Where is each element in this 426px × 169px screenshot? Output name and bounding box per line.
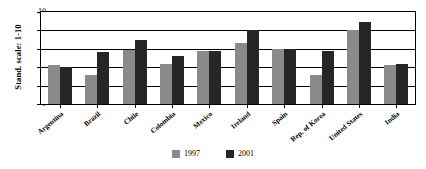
bar-1997 xyxy=(160,64,172,104)
bar-chart: Stand. scale: 1-10 0246810 ArgentinaBraz… xyxy=(0,0,426,169)
x-label-slot: Argentina xyxy=(41,108,78,148)
x-axis-category-label: Argentina xyxy=(36,110,65,136)
x-label-slot: Spain xyxy=(265,108,302,148)
x-label-slot: Colombia xyxy=(153,108,190,148)
bar-1997 xyxy=(123,50,135,104)
bar-1997 xyxy=(235,43,247,104)
x-label-slot: Brazil xyxy=(78,108,115,148)
x-axis-category-label: India xyxy=(384,110,402,127)
bar-group xyxy=(41,12,78,104)
legend-label: 1997 xyxy=(184,150,200,158)
x-axis-category-label: Mexico xyxy=(192,110,214,131)
legend-item: 2001 xyxy=(226,150,254,158)
bar-1997 xyxy=(384,65,396,104)
legend-label: 2001 xyxy=(238,150,254,158)
x-axis-category-label: Ireland xyxy=(229,110,251,131)
bar-group xyxy=(265,12,302,104)
bar-2001 xyxy=(247,30,259,104)
x-axis-category-label: Colombia xyxy=(149,110,177,135)
bar-2001 xyxy=(60,67,72,104)
chart-legend: 19972001 xyxy=(0,150,426,158)
bar-1997 xyxy=(48,65,60,104)
legend-swatch-icon xyxy=(226,150,234,158)
bar-group xyxy=(116,12,153,104)
x-label-slot: Rep. of Korea xyxy=(303,108,340,148)
x-label-slot: United States xyxy=(340,108,377,148)
bar-2001 xyxy=(322,51,334,104)
bar-group xyxy=(340,12,377,104)
legend-swatch-icon xyxy=(172,150,180,158)
x-axis-category-label: Chile xyxy=(122,110,140,127)
bar-2001 xyxy=(172,56,184,104)
bar-2001 xyxy=(135,40,147,104)
bar-1997 xyxy=(85,75,97,104)
x-label-slot: Chile xyxy=(116,108,153,148)
bar-2001 xyxy=(97,52,109,104)
bars-layer xyxy=(41,12,415,104)
bar-2001 xyxy=(209,51,221,104)
x-axis-category-labels: ArgentinaBrazilChileColombiaMexicoIrelan… xyxy=(41,108,415,148)
x-axis-category-label: Spain xyxy=(271,110,290,127)
x-label-slot: Ireland xyxy=(228,108,265,148)
x-label-slot: India xyxy=(378,108,415,148)
y-axis-title: Stand. scale: 1-10 xyxy=(11,7,25,107)
legend-item: 1997 xyxy=(172,150,200,158)
bar-2001 xyxy=(284,49,296,104)
bar-2001 xyxy=(396,64,408,104)
x-axis-category-label: Brazil xyxy=(83,110,103,128)
bar-1997 xyxy=(272,49,284,104)
x-label-slot: Mexico xyxy=(191,108,228,148)
bar-group xyxy=(303,12,340,104)
bar-1997 xyxy=(197,51,209,104)
bar-1997 xyxy=(310,75,322,104)
bar-1997 xyxy=(347,30,359,104)
bar-group xyxy=(378,12,415,104)
bar-group xyxy=(78,12,115,104)
bar-group xyxy=(228,12,265,104)
bar-group xyxy=(153,12,190,104)
bar-group xyxy=(191,12,228,104)
bar-2001 xyxy=(359,22,371,104)
